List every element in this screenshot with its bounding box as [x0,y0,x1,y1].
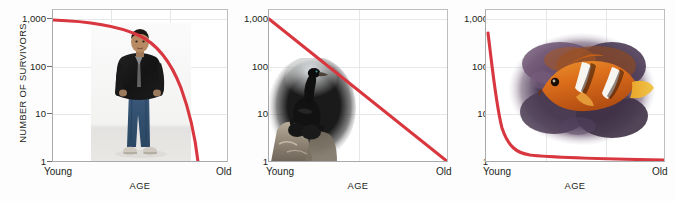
y-axis-title: NUMBER OF SURVIVORS [18,8,28,158]
y-tick-label-1000: 1,000 [8,13,46,24]
curve-type-iii [486,10,665,162]
panel-type-i: NUMBER OF SURVIVORS 1,000 100 10 1 [0,0,240,201]
x-end-label: Old [436,166,452,177]
y-tick-label-100: 100 [8,61,46,72]
x-start-label: Young [266,166,294,177]
y-tick-label-10: 10 [230,108,268,119]
y-tick-label-1: 1 [230,156,268,167]
panel-type-ii: 1,000 100 10 1 [240,0,462,201]
x-axis-title: AGE [535,181,615,191]
y-tick-label-100: 100 [450,61,488,72]
curve-type-i [53,10,228,162]
y-tick-label-100: 100 [230,61,268,72]
y-tick-label-10: 10 [8,108,46,119]
x-axis-title: AGE [318,181,398,191]
y-tick-label-1: 1 [8,156,46,167]
x-axis-title: AGE [100,181,180,191]
x-start-label: Young [44,166,72,177]
panel-type-iii: 1,000 100 10 1 [462,0,675,201]
x-end-label: Old [216,166,232,177]
curve-type-ii [269,10,448,162]
plot-area-type-i [52,9,228,162]
survivorship-curves-figure: NUMBER OF SURVIVORS 1,000 100 10 1 [0,0,675,201]
plot-area-type-iii [485,9,665,162]
x-end-label: Old [652,166,668,177]
x-start-label: Young [483,166,511,177]
y-tick-label-10: 10 [450,108,488,119]
plot-area-type-ii [268,9,448,162]
y-tick-label-1000: 1,000 [450,13,488,24]
y-tick-label-1000: 1,000 [230,13,268,24]
